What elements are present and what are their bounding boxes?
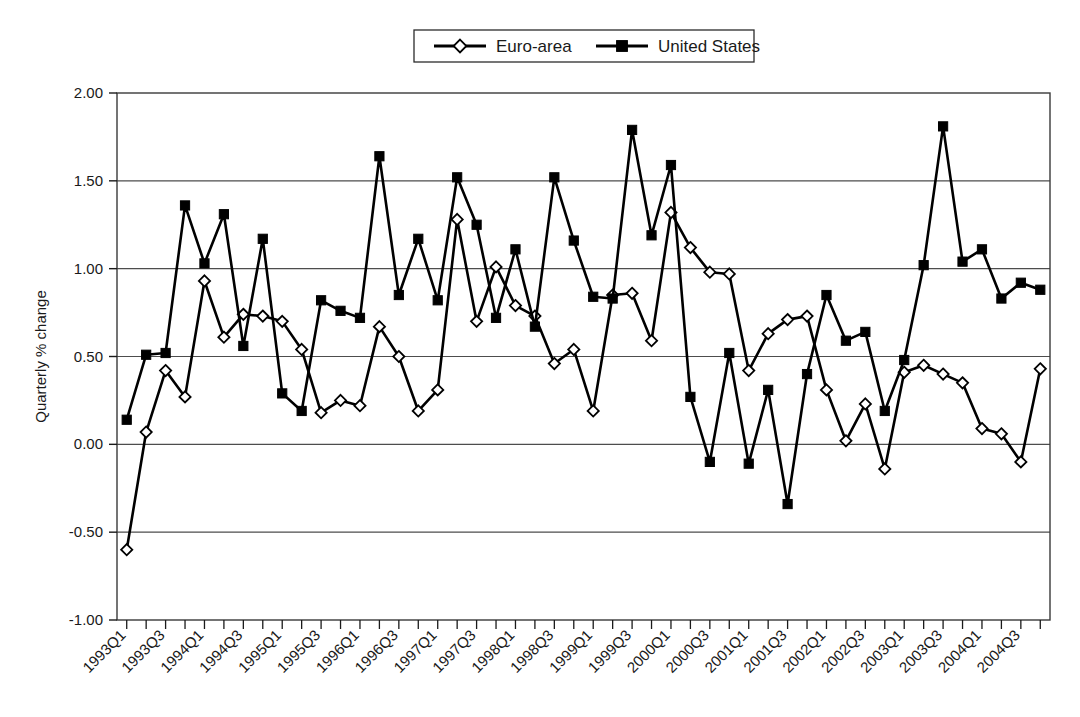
data-point	[239, 341, 248, 350]
data-point	[938, 122, 947, 131]
data-point	[375, 152, 384, 161]
y-tick-label: 1.50	[74, 172, 103, 189]
data-point	[278, 389, 287, 398]
data-point	[336, 306, 345, 315]
data-point	[802, 369, 811, 378]
y-tick-label: 2.00	[74, 84, 103, 101]
chart-container: Euro-areaUnited States 1993Q11993Q31994Q…	[0, 0, 1080, 717]
y-tick-label: 0.50	[74, 348, 103, 365]
data-point	[861, 327, 870, 336]
data-point	[997, 294, 1006, 303]
chart-legend: Euro-areaUnited States	[414, 30, 760, 62]
y-axis-title: Quarterly % change	[32, 290, 49, 423]
data-point	[725, 348, 734, 357]
data-point	[744, 459, 753, 468]
y-tick-label: 0.00	[74, 435, 103, 452]
data-point	[764, 385, 773, 394]
y-tick-label: -1.00	[69, 611, 103, 628]
data-point	[919, 261, 928, 270]
data-point	[1036, 285, 1045, 294]
data-point	[686, 392, 695, 401]
data-point	[783, 499, 792, 508]
y-tick-label: -0.50	[69, 523, 103, 540]
data-point	[511, 245, 520, 254]
data-point	[647, 231, 656, 240]
data-point	[491, 313, 500, 322]
y-tick-label: 1.00	[74, 260, 103, 277]
legend-label-1: Euro-area	[496, 37, 572, 56]
data-point	[316, 296, 325, 305]
data-point	[219, 210, 228, 219]
data-point	[180, 201, 189, 210]
data-point	[161, 348, 170, 357]
data-point	[472, 220, 481, 229]
data-point	[666, 160, 675, 169]
data-point	[550, 173, 559, 182]
data-point	[394, 290, 403, 299]
chart-background	[0, 0, 1080, 717]
data-point	[977, 245, 986, 254]
data-point	[258, 234, 267, 243]
data-point	[433, 296, 442, 305]
data-point	[627, 125, 636, 134]
quarterly-percent-change-line-chart: Euro-areaUnited States 1993Q11993Q31994Q…	[0, 0, 1080, 717]
data-point	[880, 406, 889, 415]
data-point	[530, 322, 539, 331]
data-point	[841, 336, 850, 345]
data-point	[200, 259, 209, 268]
data-point	[705, 457, 714, 466]
data-point	[142, 350, 151, 359]
data-point	[900, 355, 909, 364]
data-point	[122, 415, 131, 424]
data-point	[414, 234, 423, 243]
legend-marker-2	[617, 41, 628, 52]
y-axis-title-text: Quarterly % change	[32, 290, 49, 423]
data-point	[822, 290, 831, 299]
data-point	[569, 236, 578, 245]
data-point	[589, 292, 598, 301]
data-point	[297, 406, 306, 415]
data-point	[453, 173, 462, 182]
data-point	[958, 257, 967, 266]
data-point	[355, 313, 364, 322]
data-point	[608, 294, 617, 303]
data-point	[1016, 278, 1025, 287]
legend-label-2: United States	[658, 37, 760, 56]
